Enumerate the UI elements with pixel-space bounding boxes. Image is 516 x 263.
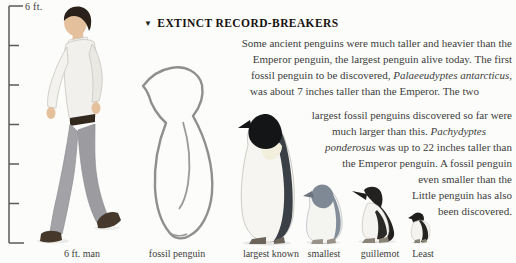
section-title-text: EXTINCT RECORD-BREAKERS: [157, 17, 338, 29]
triangle-bullet-icon: ▼: [144, 19, 152, 28]
man-illustration: [31, 6, 134, 246]
book-page: 6 ft.: [0, 0, 516, 263]
text-line: much larger than this. Pachydyptes: [200, 123, 512, 139]
caption-guillemot: guillemot: [361, 248, 399, 259]
caption-smallest: smallest: [308, 248, 341, 259]
text-line: largest fossil penguins discovered so fa…: [200, 107, 512, 123]
body-text: Some ancient penguins were much taller a…: [200, 35, 512, 219]
text-line: fossil penguin to be discovered, Palaeeu…: [200, 67, 512, 83]
text-line: Some ancient penguins were much taller a…: [200, 35, 512, 51]
text-line: Emperor penguin, the largest penguin ali…: [200, 51, 512, 67]
caption-largest-known: largest known: [243, 248, 299, 259]
section-title: ▼EXTINCT RECORD-BREAKERS: [144, 17, 339, 29]
text-line: been discovered.: [200, 203, 512, 219]
text-line: Little penguin has also: [200, 187, 512, 203]
scale-ruler: [4, 3, 30, 251]
caption-least: Least: [412, 248, 434, 259]
text-line: even smaller than the: [200, 171, 512, 187]
text-line: the Emperor penguin. A fossil penguin: [200, 155, 512, 171]
caption-fossil-penguin: fossil penguin: [149, 248, 205, 259]
text-line: ponderosus was up to 22 inches taller th…: [200, 139, 512, 155]
text-line: was about 7 inches taller than the Emper…: [200, 83, 512, 99]
caption-man: 6 ft. man: [64, 248, 100, 259]
